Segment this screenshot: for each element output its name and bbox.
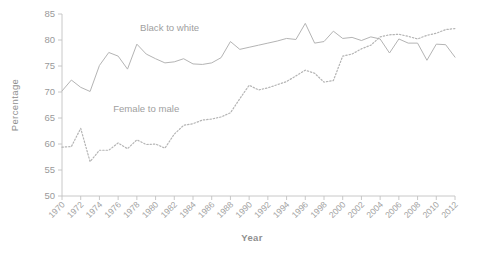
series-line-0 [62,23,455,91]
data-series [62,23,455,161]
line-chart: 5055606570758085 19701972197419761978198… [0,0,482,255]
x-tick-label: 1974 [84,199,105,220]
x-tick-label: 1984 [177,199,198,220]
x-tick-label: 1994 [271,199,292,220]
x-axis-ticks: 1970197219741976197819801982198419861988… [46,196,460,220]
series-line-1 [62,29,455,162]
series-annotation-1: Female to male [113,103,179,114]
x-tick-label: 2004 [364,199,385,220]
series-annotation-0: Black to white [140,22,199,33]
y-axis-label: Percentage [9,79,20,132]
x-tick-label: 1972 [65,199,86,220]
x-axis-label: Year [241,232,262,243]
x-tick-label: 1998 [308,199,329,220]
y-axis-ticks: 5055606570758085 [44,8,62,201]
x-tick-label: 1976 [102,199,123,220]
x-tick-label: 2012 [439,199,460,220]
x-tick-label: 1980 [140,199,161,220]
x-tick-label: 1988 [215,199,236,220]
chart-container: 5055606570758085 19701972197419761978198… [0,0,482,255]
x-tick-label: 2008 [402,199,423,220]
x-tick-label: 2010 [421,199,442,220]
x-tick-label: 2006 [383,199,404,220]
x-tick-label: 1990 [233,199,254,220]
x-tick-label: 1978 [121,199,142,220]
y-tick-label: 50 [44,190,55,201]
y-tick-label: 80 [44,34,55,45]
x-tick-label: 2000 [327,199,348,220]
y-tick-label: 85 [44,8,55,19]
y-tick-label: 55 [44,164,55,175]
y-tick-label: 60 [44,138,55,149]
x-tick-label: 2002 [346,199,367,220]
x-tick-label: 1986 [196,199,217,220]
x-tick-label: 1970 [46,199,67,220]
y-tick-label: 65 [44,112,55,123]
x-tick-label: 1982 [159,199,180,220]
y-tick-label: 70 [44,86,55,97]
x-tick-label: 1992 [252,199,273,220]
y-tick-label: 75 [44,60,55,71]
x-tick-label: 1996 [290,199,311,220]
